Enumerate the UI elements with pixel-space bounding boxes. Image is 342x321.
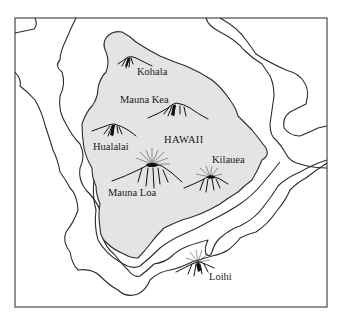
label-mauna-kea: Mauna Kea [120,94,169,105]
label-hualalai: Hualalai [93,141,129,152]
label-kohala: Kohala [137,66,168,77]
label-mauna-loa: Mauna Loa [108,187,156,198]
hawaii-volcano-map: Kohala Mauna Kea Hualalai HAWAII [0,0,342,321]
bathymetric-contour-corner [15,18,36,33]
map-canvas: Kohala Mauna Kea Hualalai HAWAII [0,0,342,321]
label-loihi: Loihi [209,271,232,282]
label-island-hawaii: HAWAII [164,134,204,145]
label-kilauea: Kilauea [212,154,245,165]
